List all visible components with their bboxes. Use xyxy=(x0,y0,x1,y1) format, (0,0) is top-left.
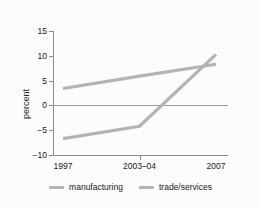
legend-item-trade-services[interactable]: trade/services xyxy=(139,182,212,192)
y-axis-tick-label: 0 xyxy=(42,100,47,110)
y-axis-tick xyxy=(49,130,53,131)
x-axis-tick-label: 2003–04 xyxy=(123,161,156,171)
x-axis-tick-label: 1997 xyxy=(54,161,73,171)
chart-figure: percent 151050−5−1019972003–042007 xyxy=(0,0,261,208)
plot-area: 151050−5−1019972003–042007 xyxy=(53,31,228,155)
legend-swatch-manufacturing xyxy=(49,186,64,189)
series-lines xyxy=(53,31,228,155)
x-axis-tick xyxy=(140,155,141,160)
y-axis-tick xyxy=(49,105,53,106)
legend-item-manufacturing[interactable]: manufacturing xyxy=(49,182,123,192)
legend-label-trade-services: trade/services xyxy=(159,182,212,192)
y-axis-tick-label: 15 xyxy=(38,26,47,36)
chart-legend: manufacturing trade/services xyxy=(0,182,261,192)
y-axis-tick xyxy=(49,56,53,57)
x-axis-tick-label: 2007 xyxy=(207,161,226,171)
y-axis-tick-label: 10 xyxy=(38,51,47,61)
legend-label-manufacturing: manufacturing xyxy=(69,182,123,192)
y-axis-tick xyxy=(49,81,53,82)
y-axis-tick-label: −10 xyxy=(33,150,47,160)
y-axis-tick-label: 5 xyxy=(42,76,47,86)
legend-swatch-trade-services xyxy=(139,186,154,189)
y-axis-tick xyxy=(49,31,53,32)
y-axis-tick xyxy=(49,155,53,156)
x-axis-line xyxy=(53,155,228,156)
y-axis-title: percent xyxy=(21,89,31,119)
y-axis-tick-label: −5 xyxy=(37,125,47,135)
